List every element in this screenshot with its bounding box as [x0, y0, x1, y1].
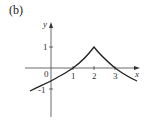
x-axis-label: x — [134, 69, 139, 79]
x-tick-label-2: 2 — [92, 71, 97, 81]
function-graph: y x 0 1 2 3 1 -1 — [0, 0, 147, 125]
x-tick-label-1: 1 — [71, 71, 76, 81]
x-tick-label-3: 3 — [113, 71, 118, 81]
y-tick-label-1: 1 — [43, 42, 48, 52]
y-axis-arrow-icon — [49, 22, 53, 28]
y-axis-label: y — [42, 19, 47, 29]
origin-label: 0 — [44, 69, 49, 79]
